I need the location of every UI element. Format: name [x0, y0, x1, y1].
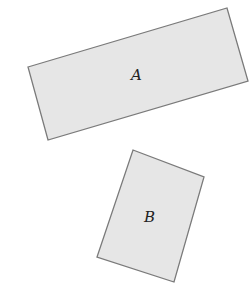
label-a: A — [129, 66, 142, 84]
label-b: B — [143, 208, 155, 226]
diagram-canvas: A B — [0, 0, 252, 298]
